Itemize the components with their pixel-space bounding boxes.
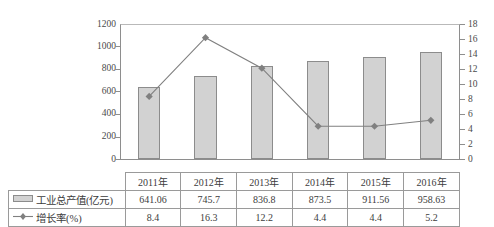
growth-rate-markers: [146, 34, 435, 130]
right-tick-mark: [460, 159, 465, 160]
table-header-2014: 2014年: [292, 173, 348, 191]
cell-growth-2012: 16.3: [181, 209, 237, 227]
cell-growth-2014: 4.4: [292, 209, 348, 227]
cell-output-2013: 836.8: [237, 191, 293, 209]
right-axis-tick-6: 6: [468, 109, 492, 119]
left-axis-tick-800: 800: [76, 63, 116, 73]
right-axis-tick-18: 18: [468, 19, 492, 29]
right-tick-mark: [460, 84, 465, 85]
cell-output-2014: 873.5: [292, 191, 348, 209]
table-corner-cell: [9, 173, 126, 191]
chart-page: 1200 1000 800 600 400 200 0 18 16 14 12 …: [0, 0, 494, 227]
cell-growth-2013: 12.2: [237, 209, 293, 227]
right-axis-tick-8: 8: [468, 94, 492, 104]
right-axis-tick-16: 16: [468, 34, 492, 44]
combo-chart: 1200 1000 800 600 400 200 0 18 16 14 12 …: [0, 0, 494, 172]
left-axis-tick-200: 200: [76, 131, 116, 141]
table-row: 工业总产值(亿元) 641.06 745.7 836.8 873.5 911.5…: [9, 191, 460, 209]
legend-label-output-value: 工业总产值(亿元): [36, 195, 113, 206]
cell-growth-2015: 4.4: [348, 209, 404, 227]
right-tick-mark: [460, 39, 465, 40]
right-tick-mark: [460, 54, 465, 55]
legend-item-output-value: 工业总产值(亿元): [9, 191, 126, 209]
right-axis-tick-4: 4: [468, 124, 492, 134]
growth-rate-line: [149, 38, 431, 127]
table-header-row: 2011年 2012年 2013年 2014年 2015年 2016年: [9, 173, 460, 191]
table-header-2013: 2013年: [237, 173, 293, 191]
left-axis-tick-0: 0: [76, 154, 116, 164]
right-axis-tick-10: 10: [468, 79, 492, 89]
right-tick-mark: [460, 99, 465, 100]
right-axis-tick-12: 12: [468, 64, 492, 74]
right-tick-mark: [460, 24, 465, 25]
right-tick-mark: [460, 144, 465, 145]
line-series-layer: [120, 24, 460, 160]
table-header-2012: 2012年: [181, 173, 237, 191]
left-axis-tick-600: 600: [76, 86, 116, 96]
table-header-2015: 2015年: [348, 173, 404, 191]
left-axis-tick-400: 400: [76, 108, 116, 118]
right-axis-tick-0: 0: [468, 154, 492, 164]
table-header-2016: 2016年: [404, 173, 460, 191]
cell-output-2016: 958.63: [404, 191, 460, 209]
left-axis-tick-1200: 1200: [76, 19, 116, 29]
right-axis-tick-2: 2: [468, 139, 492, 149]
cell-growth-2016: 5.2: [404, 209, 460, 227]
marker-2015年: [371, 123, 378, 130]
table-header-2011: 2011年: [125, 173, 181, 191]
bar-swatch-icon: [13, 195, 33, 202]
right-tick-mark: [460, 129, 465, 130]
cell-output-2015: 911.56: [348, 191, 404, 209]
legend-item-growth-rate: 增长率(%): [9, 209, 126, 227]
cell-growth-2011: 8.4: [125, 209, 181, 227]
right-axis-tick-14: 14: [468, 49, 492, 59]
marker-2016年: [427, 117, 434, 124]
left-axis-tick-1000: 1000: [76, 41, 116, 51]
line-marker-swatch-icon: [13, 212, 33, 221]
right-tick-mark: [460, 69, 465, 70]
data-table: 2011年 2012年 2013年 2014年 2015年 2016年 工业总产…: [8, 172, 460, 227]
cell-output-2012: 745.7: [181, 191, 237, 209]
table-row: 增长率(%) 8.4 16.3 12.2 4.4 4.4 5.2: [9, 209, 460, 227]
right-tick-mark: [460, 114, 465, 115]
cell-output-2011: 641.06: [125, 191, 181, 209]
legend-label-growth-rate: 增长率(%): [36, 213, 82, 224]
